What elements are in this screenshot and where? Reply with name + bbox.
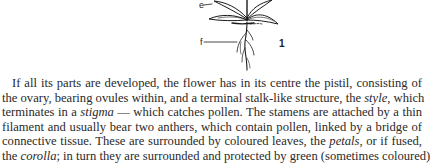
plant-drawing-icon	[190, 0, 300, 72]
paragraph-line-3: terminates in a stigma — which catches p…	[2, 105, 422, 120]
text-segment: ; in turn they are surrounded and protec…	[56, 149, 430, 163]
paragraph-line-1: If all its parts are developed, the flow…	[2, 76, 422, 91]
italic-term-style: style	[364, 91, 387, 105]
figure-label-f: f	[200, 38, 203, 47]
paragraph-line-4: filament and usually bear two anthers, w…	[2, 120, 422, 135]
text-segment: — which catches pollen. The stamens are …	[114, 105, 422, 119]
plant-figure: e f 1	[190, 0, 300, 72]
figure-number: 1	[279, 39, 285, 49]
text-segment: the	[2, 149, 21, 163]
paragraph-line-5: connective tissue. These are surrounded …	[2, 134, 422, 149]
paragraph-line-6: the corolla; in turn they are surrounded…	[2, 149, 422, 164]
text-segment: filament and usually bear two anthers, w…	[2, 120, 422, 134]
body-paragraph: If all its parts are developed, the flow…	[2, 76, 422, 164]
text-segment: If all its parts are developed, the flow…	[12, 76, 422, 90]
italic-term-corolla: corolla	[21, 149, 57, 163]
figure-label-e: e	[199, 1, 204, 10]
text-segment: , which	[387, 91, 424, 105]
text-segment: the ovary, bearing ovules within, and a …	[2, 91, 364, 105]
italic-term-stigma: stigma	[80, 105, 114, 119]
italic-term-petals: petals	[329, 134, 359, 148]
text-segment: , or if fused,	[359, 134, 422, 148]
text-segment: terminates in a	[2, 105, 80, 119]
text-segment: connective tissue. These are surrounded …	[2, 134, 329, 148]
paragraph-line-2: the ovary, bearing ovules within, and a …	[2, 91, 422, 106]
